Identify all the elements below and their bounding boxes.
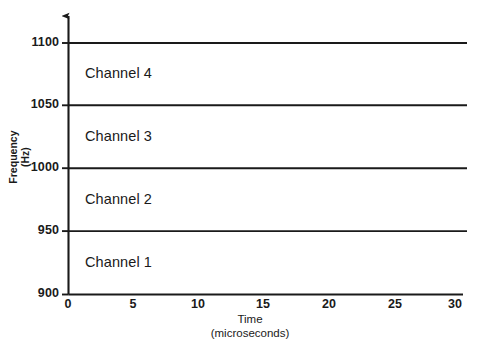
x-axis-title-main: Time: [160, 312, 340, 326]
x-tick-label-20: 20: [315, 298, 343, 311]
chart-canvas: [0, 0, 480, 347]
y-tick-label-900: 900: [17, 287, 59, 300]
frequency-band-chart: 1100 1050 1000 950 900 0 5 10 15 20 25 3…: [0, 0, 480, 347]
x-tick-label-25: 25: [381, 298, 409, 311]
y-tick-label-1100: 1100: [17, 36, 59, 49]
x-axis-title-units: (microseconds): [160, 326, 340, 340]
x-tick-label-10: 10: [184, 298, 212, 311]
y-axis-title: Frequency (Hz): [7, 112, 31, 202]
band-label-channel-4: Channel 4: [85, 66, 152, 81]
x-tick-label-5: 5: [119, 298, 147, 311]
band-label-channel-1: Channel 1: [85, 255, 152, 270]
y-tick-label-950: 950: [17, 224, 59, 237]
y-axis-title-main: Frequency: [7, 112, 19, 202]
x-tick-label-30: 30: [441, 298, 469, 311]
x-tick-label-0: 0: [54, 298, 82, 311]
x-axis-title: Time (microseconds): [160, 312, 340, 341]
y-axis-title-units: (Hz): [19, 112, 31, 202]
band-label-channel-2: Channel 2: [85, 192, 152, 207]
band-label-channel-3: Channel 3: [85, 129, 152, 144]
x-tick-label-15: 15: [249, 298, 277, 311]
y-tick-label-1050: 1050: [17, 98, 59, 111]
